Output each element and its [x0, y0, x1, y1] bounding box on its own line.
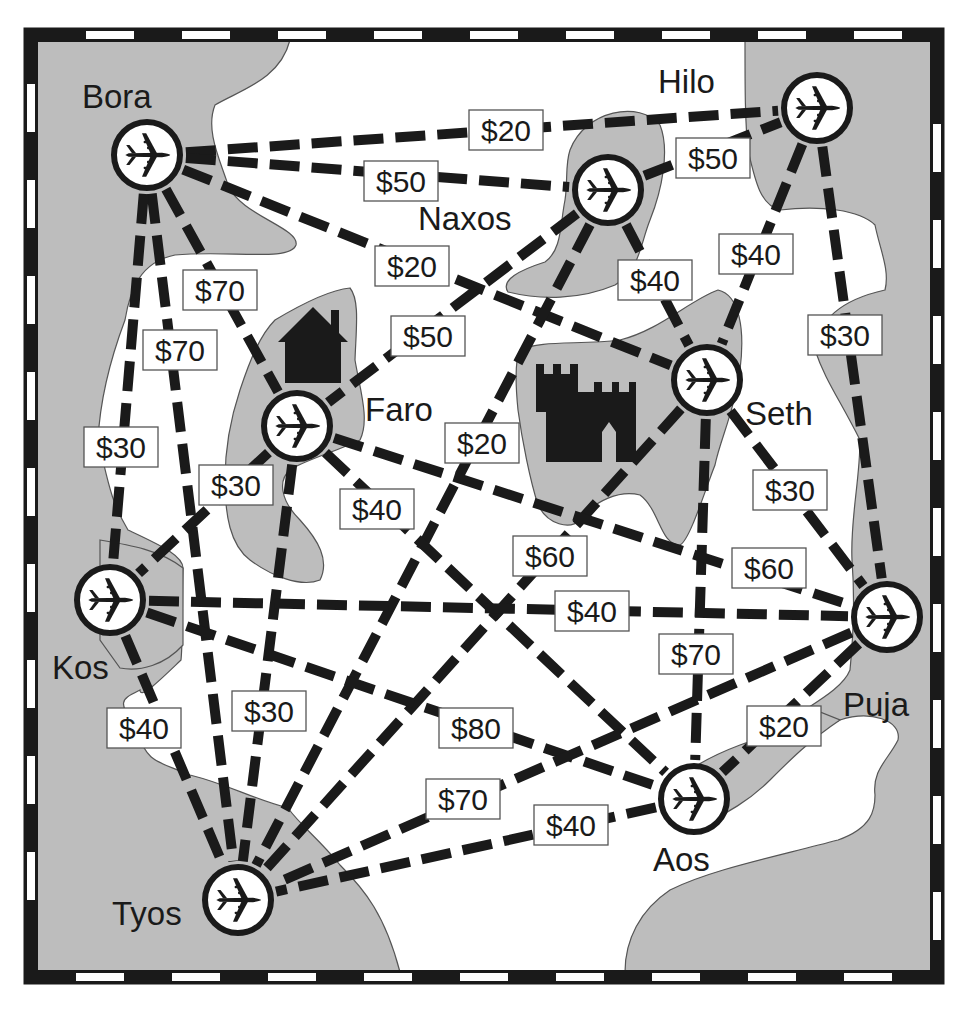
price-text: $30	[211, 469, 261, 502]
price-text: $50	[403, 320, 453, 353]
price-label: $50	[391, 316, 465, 356]
price-label: $20	[445, 423, 519, 463]
airport-bora[interactable]	[114, 122, 180, 188]
price-text: $40	[352, 493, 402, 526]
price-text: $20	[759, 710, 809, 743]
price-text: $30	[244, 695, 294, 728]
price-text: $70	[195, 274, 245, 307]
price-text: $40	[630, 264, 680, 297]
price-text: $30	[765, 474, 815, 507]
route-map: $20$50$20$70$70$30$50$40$50$20$40$30$30$…	[0, 0, 961, 1010]
price-text: $70	[438, 783, 488, 816]
price-text: $70	[155, 334, 205, 367]
price-label: $70	[659, 634, 733, 674]
price-label: $70	[143, 330, 217, 370]
price-label: $50	[364, 161, 438, 201]
price-text: $20	[481, 114, 531, 147]
city-label-bora: Bora	[82, 78, 152, 115]
airport-naxos[interactable]	[575, 157, 641, 223]
price-label: $20	[469, 110, 543, 150]
price-text: $30	[820, 319, 870, 352]
city-label-puja: Puja	[843, 686, 910, 723]
city-label-faro: Faro	[365, 391, 433, 428]
price-text: $70	[671, 638, 721, 671]
price-label: $40	[719, 234, 793, 274]
price-text: $40	[546, 809, 596, 842]
airport-hilo[interactable]	[784, 75, 850, 141]
price-label: $40	[555, 591, 629, 631]
price-label: $40	[618, 260, 692, 300]
price-label: $50	[676, 138, 750, 178]
price-text: $80	[451, 712, 501, 745]
city-label-tyos: Tyos	[112, 895, 182, 932]
price-label: $40	[340, 489, 414, 529]
price-text: $40	[119, 712, 169, 745]
airport-aos[interactable]	[661, 766, 727, 832]
price-text: $40	[731, 238, 781, 271]
price-label: $30	[753, 470, 827, 510]
price-label: $30	[199, 465, 273, 505]
price-text: $20	[457, 427, 507, 460]
airport-kos[interactable]	[77, 567, 143, 633]
city-label-seth: Seth	[745, 395, 813, 432]
price-text: $60	[744, 552, 794, 585]
airport-seth[interactable]	[674, 347, 740, 413]
price-label: $70	[183, 270, 257, 310]
city-label-hilo: Hilo	[658, 63, 715, 100]
price-text: $20	[387, 250, 437, 283]
city-label-kos: Kos	[52, 649, 109, 686]
price-text: $60	[525, 540, 575, 573]
price-label: $20	[747, 706, 821, 746]
city-label-aos: Aos	[653, 841, 710, 878]
airport-puja[interactable]	[854, 584, 920, 650]
airport-faro[interactable]	[264, 393, 330, 459]
price-label: $60	[513, 536, 587, 576]
price-label: $30	[84, 427, 158, 467]
price-text: $40	[567, 595, 617, 628]
price-label: $60	[732, 548, 806, 588]
price-label: $30	[808, 315, 882, 355]
price-label: $70	[426, 779, 500, 819]
price-text: $30	[96, 431, 146, 464]
price-label: $40	[107, 708, 181, 748]
price-label: $30	[232, 691, 306, 731]
airport-tyos[interactable]	[205, 867, 271, 933]
price-label: $40	[534, 805, 608, 845]
city-label-naxos: Naxos	[418, 200, 512, 237]
price-text: $50	[376, 165, 426, 198]
price-text: $50	[688, 142, 738, 175]
price-label: $20	[375, 246, 449, 286]
price-label: $80	[439, 708, 513, 748]
